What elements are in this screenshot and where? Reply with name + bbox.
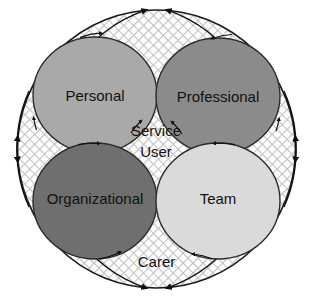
diagram-canvas: Carer (0, 0, 312, 298)
inner-circle-label-professional: Professional (177, 88, 260, 105)
inner-circle-label-team: Team (200, 190, 237, 207)
inner-circle-label-personal: Personal (65, 87, 124, 104)
center-label-line2: User (140, 143, 172, 160)
center-label-line1: Service (131, 122, 181, 139)
venn-diagram: Carer (0, 0, 312, 298)
outer-circle-label-carer: Carer (138, 253, 176, 270)
inner-circle-label-organizational: Organizational (47, 190, 144, 207)
